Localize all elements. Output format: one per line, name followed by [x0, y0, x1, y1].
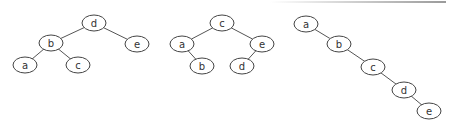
node-a: a: [294, 16, 318, 32]
node-d: d: [82, 15, 106, 31]
node-c: c: [361, 59, 385, 75]
node-d: d: [230, 58, 254, 74]
node-label: b: [199, 61, 205, 72]
node-label: a: [179, 39, 185, 50]
node-label: b: [48, 38, 54, 49]
node-label: c: [219, 18, 225, 29]
tree-2: caebd: [170, 15, 274, 74]
node-label: a: [22, 60, 28, 71]
node-c: c: [66, 57, 90, 73]
node-label: d: [239, 61, 245, 72]
node-label: e: [426, 106, 432, 117]
binary-trees-diagram: dbeaccaebdabcde: [0, 0, 454, 122]
node-e: e: [125, 36, 149, 52]
node-a: a: [13, 57, 37, 73]
node-label: c: [370, 62, 376, 73]
node-label: c: [75, 60, 81, 71]
node-a: a: [170, 36, 194, 52]
node-label: d: [91, 18, 97, 29]
tree-3: abcde: [294, 16, 441, 119]
node-d: d: [392, 82, 416, 98]
node-b: b: [39, 35, 63, 51]
node-label: d: [401, 85, 407, 96]
node-c: c: [210, 15, 234, 31]
tree-1: dbeac: [13, 15, 149, 73]
node-label: e: [259, 39, 265, 50]
node-e: e: [417, 103, 441, 119]
node-b: b: [190, 58, 214, 74]
node-label: e: [134, 39, 140, 50]
node-label: b: [336, 39, 342, 50]
node-label: a: [303, 19, 309, 30]
node-b: b: [327, 36, 351, 52]
node-e: e: [250, 36, 274, 52]
